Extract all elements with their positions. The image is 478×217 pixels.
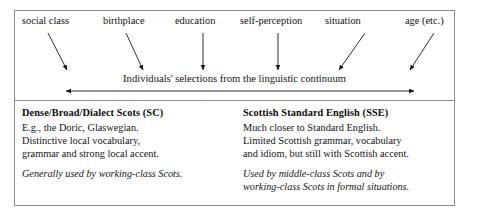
left-body-line-2: Distinctive local vocabulary,: [22, 134, 237, 147]
left-body-line-1: E.g., the Doric, Glaswegian.: [22, 121, 237, 134]
column-body-right: Much closer to Standard English.Limited …: [243, 121, 453, 160]
linguistic-continuum-figure: social classbirthplaceeducationself-perc…: [0, 0, 478, 217]
left-body-line-3: grammar and strong local accent.: [22, 147, 237, 160]
right-body-line-1: Much closer to Standard English.: [243, 121, 453, 134]
factor-label-situation: situation: [325, 15, 361, 27]
column-body-left: E.g., the Doric, Glaswegian.Distinctive …: [22, 121, 237, 160]
factor-label-birthplace: birthplace: [103, 15, 145, 27]
column-scottish-standard-english: Scottish Standard English (SSE) Much clo…: [243, 106, 453, 193]
continuum-caption: Individuals' selections from the linguis…: [14, 72, 455, 85]
factor-label-education: education: [175, 15, 215, 27]
right-body-line-2: Limited Scottish grammar, vocabulary: [243, 134, 453, 147]
column-dense-broad-dialect-scots: Dense/Broad/Dialect Scots (SC) E.g., the…: [22, 106, 237, 180]
column-heading-right: Scottish Standard English (SSE): [243, 106, 453, 120]
factor-label-age-etc: age (etc.): [405, 15, 444, 27]
right-note-line-2: working-class Scots in formal situations…: [243, 180, 453, 193]
left-note-line-1: Generally used by working-class Scots.: [22, 167, 237, 180]
right-body-line-3: and idiom, but still with Scottish accen…: [243, 147, 453, 160]
column-heading-left: Dense/Broad/Dialect Scots (SC): [22, 106, 237, 120]
right-note-line-1: Used by middle-class Scots and by: [243, 167, 453, 180]
factor-label-self-perception: self-perception: [240, 15, 302, 27]
column-note-left: Generally used by working-class Scots.: [22, 167, 237, 180]
column-note-right: Used by middle-class Scots and byworking…: [243, 167, 453, 193]
section-divider: [14, 100, 455, 101]
factor-label-social-class: social class: [22, 15, 69, 27]
